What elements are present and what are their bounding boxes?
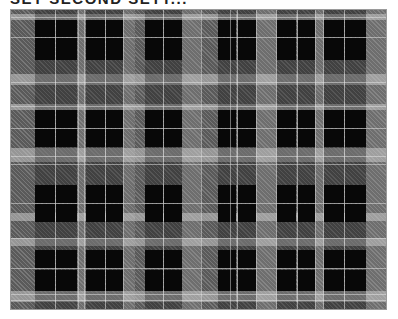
vertical-white-line: [84, 10, 85, 309]
tartan-pattern-image: [10, 9, 387, 310]
vertical-dark-stripe: [86, 10, 105, 309]
horizontal-white-line: [11, 37, 386, 38]
vertical-dark-stripe: [324, 10, 344, 309]
horizontal-white-line: [11, 82, 386, 83]
vertical-dark-stripe: [345, 10, 366, 309]
vertical-white-line: [123, 10, 124, 309]
vertical-dark-stripe: [277, 10, 296, 309]
vertical-white-line: [230, 10, 231, 309]
horizontal-white-line: [11, 156, 386, 157]
vertical-white-line: [323, 10, 324, 309]
vertical-white-line: [78, 10, 79, 309]
vertical-dark-stripe: [56, 10, 77, 309]
horizontal-white-line: [11, 17, 386, 18]
vertical-dark-stripe: [164, 10, 182, 309]
vertical-dark-stripe: [218, 10, 236, 309]
horizontal-white-line: [11, 238, 386, 239]
vertical-white-line: [237, 10, 238, 309]
vertical-white-line: [105, 10, 106, 309]
vertical-dark-stripe: [145, 10, 163, 309]
vertical-dark-stripe: [35, 10, 55, 309]
vertical-white-line: [276, 10, 277, 309]
horizontal-white-line: [11, 203, 386, 204]
vertical-white-line: [201, 10, 202, 309]
vertical-white-line: [163, 10, 164, 309]
vertical-dark-stripe: [106, 10, 123, 309]
horizontal-white-line: [11, 268, 386, 269]
vertical-white-line: [256, 10, 257, 309]
vertical-white-line: [297, 10, 298, 309]
horizontal-white-line: [11, 294, 386, 295]
horizontal-white-line: [11, 164, 386, 165]
horizontal-white-line: [11, 300, 386, 301]
vertical-dark-stripe: [298, 10, 315, 309]
vertical-white-line: [315, 10, 316, 309]
vertical-white-line: [55, 10, 56, 309]
horizontal-white-line: [11, 106, 386, 107]
pattern-caption: SET SECOND SETT...: [10, 0, 188, 7]
vertical-dark-stripe: [238, 10, 256, 309]
horizontal-white-line: [11, 128, 386, 129]
vertical-white-line: [344, 10, 345, 309]
